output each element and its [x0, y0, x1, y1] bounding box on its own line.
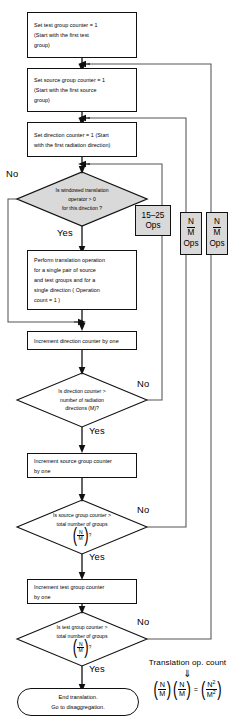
node-line: by one	[34, 592, 130, 602]
decision-source-group-counter-vs-total: Is source group counter > total number o…	[30, 508, 134, 546]
paren-close: )	[217, 679, 221, 699]
node-line: single direction ( Operation	[34, 285, 130, 295]
decision-windowed-translation-operator: Is windowed translation operator > 0 for…	[30, 183, 134, 216]
formula-equals: =	[194, 685, 198, 694]
fraction-suffix: ?	[89, 532, 92, 540]
paren-open: (	[153, 679, 157, 699]
formula-term-2: ( N M )	[173, 681, 191, 697]
paren-open: (	[201, 679, 205, 699]
flowchart-canvas: Set test group counter = 1 (Start with t…	[0, 0, 247, 721]
node-line: Set test group counter = 1	[34, 20, 130, 30]
node-line: and test groups and for a	[34, 275, 130, 285]
annotation-unit: Ops	[209, 239, 224, 249]
node-line: group)	[34, 95, 130, 105]
node-line: Set source group counter = 1	[34, 75, 130, 85]
node-line: total number of groups	[34, 632, 130, 641]
annotation-nm-ops-test: N M Ops	[206, 212, 228, 255]
node-line: Is source group counter >	[34, 511, 130, 520]
process-increment-test-group-counter: Increment test group counter by one	[27, 579, 137, 604]
node-line: by one	[34, 466, 130, 476]
node-line: directions (M)?	[34, 404, 130, 413]
fraction-group: ( N M ) ?	[34, 641, 130, 655]
node-line: Increment test group counter	[34, 582, 130, 592]
process-increment-direction-counter: Increment direction counter by one	[27, 331, 137, 350]
node-line: Set direction counter = 1 (Start	[34, 130, 130, 140]
node-line: Is windowed translation	[34, 186, 130, 195]
annotation-numerator: N	[187, 218, 195, 228]
paren-close: )	[167, 679, 171, 699]
node-line: total number of groups	[34, 520, 130, 529]
node-line: operator > 0	[34, 195, 130, 204]
fraction-group: ( N M ) ?	[34, 529, 130, 543]
paren-open: (	[73, 638, 77, 658]
node-line: for a single pair of source	[34, 265, 130, 275]
node-line: (Start with the first test	[34, 30, 130, 40]
node-line: with the first radiation direction)	[34, 140, 130, 150]
node-line: number of radiation	[34, 396, 130, 405]
formula-equation: ( N M ) ( N M ) = ( N2 M2	[128, 680, 247, 698]
formula-result: ( N2 M2 )	[201, 680, 222, 698]
paren-open: (	[73, 526, 77, 546]
branch-label-d4-yes: Yes	[89, 663, 105, 674]
formula-term-1: ( N M )	[153, 681, 171, 697]
branch-label-d2-no: No	[137, 378, 149, 389]
fraction-denominator: M	[177, 690, 186, 697]
paren-close: )	[84, 526, 88, 546]
terminal-end-translation: End translation. Go to disaggregation.	[17, 688, 139, 716]
process-set-direction-counter: Set direction counter = 1 (Start with th…	[27, 122, 137, 157]
node-line: count = 1 )	[34, 295, 130, 305]
fraction-denominator: M	[158, 690, 167, 697]
process-perform-translation-operation: Perform translation operation for a sing…	[27, 250, 137, 310]
branch-label-d2-yes: Yes	[89, 425, 105, 436]
annotation-value: 15–25	[142, 211, 165, 221]
process-increment-source-group-counter: Increment source group counter by one	[27, 453, 137, 478]
fraction-suffix: ?	[89, 644, 92, 652]
formula-title: Translation op. count	[128, 658, 247, 667]
node-line: End translation.	[18, 692, 138, 702]
branch-label-d1-no: No	[6, 168, 18, 179]
annotation-15-25-ops: 15–25 Ops	[135, 205, 171, 236]
fraction-denominator: M	[77, 536, 84, 541]
node-line: Is test group counter >	[34, 623, 130, 632]
decision-test-group-counter-vs-total: Is test group counter > total number of …	[30, 620, 134, 658]
annotation-denominator: M	[188, 228, 195, 238]
branch-label-d3-no: No	[137, 504, 149, 515]
process-set-test-group-counter: Set test group counter = 1 (Start with t…	[27, 12, 137, 58]
node-line: Increment source group counter	[34, 456, 130, 466]
formula-block: Translation op. count ⇓ ( N M ) ( N M ) …	[128, 658, 247, 698]
fraction-denominator-exponent: 2	[213, 689, 216, 695]
branch-label-d4-no: No	[137, 616, 149, 627]
node-line: Increment direction counter by one	[34, 336, 130, 346]
node-line: for this direction ?	[34, 204, 130, 213]
paren-close: )	[84, 638, 88, 658]
annotation-numerator: N	[213, 218, 221, 228]
branch-label-d3-yes: Yes	[89, 551, 105, 562]
fraction-numerator-exponent: 2	[212, 679, 215, 685]
paren-close: )	[186, 679, 190, 699]
paren-open: (	[173, 679, 177, 699]
annotation-unit: Ops	[145, 221, 160, 231]
node-line: Is direction counter >	[34, 387, 130, 396]
node-line: group)	[34, 40, 130, 50]
node-line: Perform translation operation	[34, 255, 130, 265]
decision-direction-counter-vs-M: Is direction counter > number of radiati…	[30, 384, 134, 416]
annotation-denominator: M	[214, 228, 221, 238]
annotation-nm-ops-source: N M Ops	[180, 212, 202, 255]
fraction-denominator: M	[77, 648, 84, 653]
branch-label-d1-yes: Yes	[57, 227, 73, 238]
node-line: (Start with the first source	[34, 85, 130, 95]
fraction-denominator: M2	[205, 690, 217, 699]
node-line: Go to disaggregation.	[18, 702, 138, 712]
process-set-source-group-counter: Set source group counter = 1 (Start with…	[27, 68, 137, 112]
annotation-unit: Ops	[183, 239, 198, 249]
